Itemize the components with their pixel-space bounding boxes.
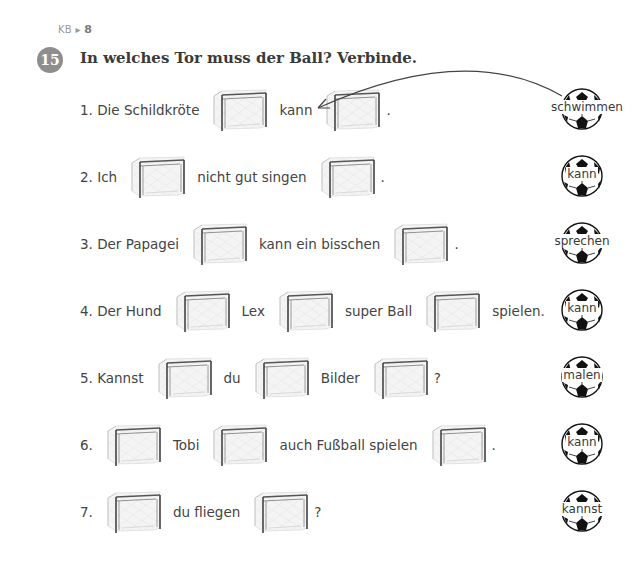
ball-word-0[interactable]: schwimmen bbox=[560, 87, 604, 131]
sentence-fragment: . bbox=[454, 236, 458, 252]
sentence-fragment: . bbox=[492, 437, 496, 453]
ball-word-label: malen bbox=[562, 368, 601, 382]
sentence-start: 6. bbox=[80, 437, 93, 453]
goal-target-icon[interactable] bbox=[274, 289, 336, 333]
ball-label-wrap: sprechen bbox=[550, 234, 614, 248]
ball-word-label: kann bbox=[566, 167, 597, 181]
sentence-fragment: nicht gut singen bbox=[197, 169, 306, 185]
ball-label-wrap: kann bbox=[550, 167, 614, 181]
sentence-fragment: du bbox=[224, 370, 241, 386]
sentence-row-3: 3. Der Papagei kann ein bisschen . bbox=[80, 222, 468, 266]
ball-word-1[interactable]: kann bbox=[560, 154, 604, 198]
goal-target-icon[interactable] bbox=[126, 155, 188, 199]
goal-target-icon[interactable] bbox=[389, 222, 451, 266]
goal-target-icon[interactable] bbox=[102, 490, 164, 534]
goal-target-icon[interactable] bbox=[249, 490, 311, 534]
sentence-fragment: . bbox=[381, 169, 385, 185]
goal-target-icon[interactable] bbox=[102, 423, 164, 467]
sentence-fragment: super Ball bbox=[345, 303, 412, 319]
ball-word-label: kann bbox=[566, 301, 597, 315]
reference-prefix: KB bbox=[58, 24, 72, 35]
sentence-fragment: kann bbox=[279, 102, 312, 118]
goal-target-icon[interactable] bbox=[188, 222, 250, 266]
sentence-row-7: 7. du fliegen ? bbox=[80, 490, 330, 534]
goal-target-icon[interactable] bbox=[171, 289, 233, 333]
sentence-row-2: 2. Ich nicht gut singen . bbox=[80, 155, 394, 199]
sentence-fragment: ? bbox=[434, 370, 441, 386]
exercise-instruction: In welches Tor muss der Ball? Verbinde. bbox=[80, 49, 417, 67]
goal-target-icon[interactable] bbox=[153, 356, 215, 400]
reference-arrow-icon: ▸ bbox=[76, 24, 81, 35]
coursebook-reference: KB ▸ 8 bbox=[58, 23, 92, 36]
ball-label-wrap: kannst bbox=[550, 502, 614, 516]
ball-label-wrap: kann bbox=[550, 435, 614, 449]
reference-page: 8 bbox=[84, 23, 92, 36]
sentence-fragment: Bilder bbox=[321, 370, 360, 386]
ball-label-wrap: malen bbox=[550, 368, 614, 382]
ball-word-4[interactable]: malen bbox=[560, 355, 604, 399]
goal-target-icon[interactable] bbox=[250, 356, 312, 400]
sentence-row-5: 5. Kannst du Bilder ? bbox=[80, 356, 450, 400]
sentence-row-4: 4. Der Hund Lex super Ball spielen. bbox=[80, 289, 554, 333]
sentence-start: 3. Der Papagei bbox=[80, 236, 179, 252]
ball-word-label: sprechen bbox=[553, 234, 610, 248]
ball-word-label: schwimmen bbox=[550, 100, 624, 114]
sentence-start: 2. Ich bbox=[80, 169, 117, 185]
ball-word-label: kannst bbox=[561, 502, 603, 516]
goal-target-icon[interactable] bbox=[421, 289, 483, 333]
goal-target-icon[interactable] bbox=[208, 423, 270, 467]
sentence-fragment: kann ein bisschen bbox=[259, 236, 380, 252]
ball-word-2[interactable]: sprechen bbox=[560, 221, 604, 265]
goal-target-icon[interactable] bbox=[369, 356, 431, 400]
goal-target-icon[interactable] bbox=[208, 88, 270, 132]
sentence-start: 4. Der Hund bbox=[80, 303, 162, 319]
sentence-fragment: Tobi bbox=[173, 437, 200, 453]
ball-word-5[interactable]: kann bbox=[560, 422, 604, 466]
sentence-fragment: du fliegen bbox=[173, 504, 240, 520]
ball-label-wrap: kann bbox=[550, 301, 614, 315]
sentence-fragment: Lex bbox=[242, 303, 265, 319]
ball-word-3[interactable]: kann bbox=[560, 288, 604, 332]
ball-label-wrap: schwimmen bbox=[550, 100, 614, 114]
sentence-row-6: 6. Tobi auch Fußball spielen . bbox=[80, 423, 505, 467]
sentence-fragment: . bbox=[386, 102, 390, 118]
ball-word-label: kann bbox=[566, 435, 597, 449]
sentence-fragment: ? bbox=[314, 504, 321, 520]
goal-target-icon[interactable] bbox=[427, 423, 489, 467]
exercise-number-badge: 15 bbox=[37, 47, 63, 73]
ball-word-6[interactable]: kannst bbox=[560, 489, 604, 533]
sentence-fragment: auch Fußball spielen bbox=[279, 437, 417, 453]
goal-target-icon[interactable] bbox=[316, 155, 378, 199]
sentence-row-1: 1. Die Schildkröte kann . bbox=[80, 88, 400, 132]
goal-target-icon[interactable] bbox=[321, 88, 383, 132]
sentence-start: 1. Die Schildkröte bbox=[80, 102, 199, 118]
sentence-fragment: spielen. bbox=[492, 303, 545, 319]
sentence-start: 7. bbox=[80, 504, 93, 520]
sentence-start: 5. Kannst bbox=[80, 370, 144, 386]
